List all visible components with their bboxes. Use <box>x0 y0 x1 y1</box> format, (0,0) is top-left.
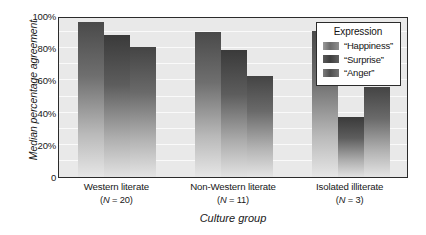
x-category-name: Western literate <box>58 181 175 194</box>
x-category-sample-size: (N = 20) <box>58 194 175 207</box>
swatch-happiness-icon <box>323 42 339 50</box>
bar <box>221 50 247 177</box>
bar <box>247 76 273 177</box>
x-category-name: Non-Western literate <box>175 181 292 194</box>
swatch-anger-icon <box>323 69 339 77</box>
legend-entry-label: “Happiness” <box>344 40 393 51</box>
y-tick-label: 80% <box>22 44 56 54</box>
legend-entry[interactable]: “Surprise” <box>323 54 393 65</box>
legend-entry-label: “Anger” <box>344 67 374 78</box>
x-axis-title: Culture group <box>58 212 408 224</box>
y-tick-label: 20% <box>22 141 56 151</box>
legend-entries: “Happiness”“Surprise”“Anger” <box>323 40 393 78</box>
bar <box>338 117 364 177</box>
bar <box>78 22 104 177</box>
x-category-label: Western literate(N = 20) <box>58 181 175 206</box>
legend-entry[interactable]: “Anger” <box>323 67 393 78</box>
x-category-sample-size: (N = 11) <box>175 194 292 207</box>
bar <box>364 87 390 177</box>
y-tick-label: 60% <box>22 76 56 86</box>
y-tick-label: 40% <box>22 109 56 119</box>
y-axis-tick-labels: 020%40%60%80%100% <box>16 0 56 235</box>
bar <box>195 32 221 177</box>
x-category-label: Isolated illiterate(N = 3) <box>291 181 408 206</box>
x-axis-category-labels: Western literate(N = 20)Non-Western lite… <box>58 181 408 215</box>
plot-area: Expression “Happiness”“Surprise”“Anger” <box>58 17 408 178</box>
bar-chart-figure: Median percentage agreement 020%40%60%80… <box>0 0 426 235</box>
x-category-label: Non-Western literate(N = 11) <box>175 181 292 206</box>
bar <box>130 47 156 177</box>
bar <box>104 35 130 177</box>
x-category-name: Isolated illiterate <box>291 181 408 194</box>
legend-entry-label: “Surprise” <box>344 54 384 65</box>
x-category-sample-size: (N = 3) <box>291 194 408 207</box>
bar-group <box>195 18 273 177</box>
y-tick-label: 0 <box>22 173 56 183</box>
bar-group <box>78 18 156 177</box>
y-tick-label: 100% <box>22 12 56 22</box>
swatch-surprise-icon <box>323 55 339 63</box>
legend-title: Expression <box>323 26 393 37</box>
legend-entry[interactable]: “Happiness” <box>323 40 393 51</box>
legend: Expression “Happiness”“Surprise”“Anger” <box>316 22 401 86</box>
